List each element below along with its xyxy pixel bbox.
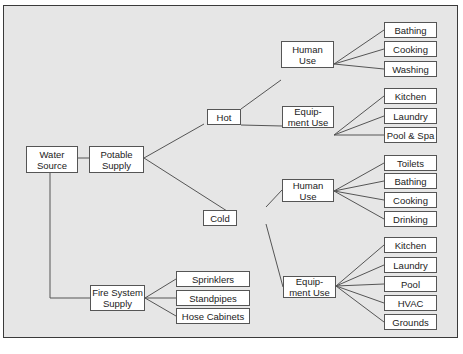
node-hot-human-bathing: Bathing	[384, 22, 437, 38]
node-fire-standpipes: Standpipes	[176, 290, 250, 306]
node-cold-human-drinking: Drinking	[384, 211, 437, 227]
node-fire-hose-cabinets: Hose Cabinets	[176, 308, 250, 324]
node-cold-human-use: Human Use	[282, 179, 334, 202]
node-cold-equip-pool: Pool	[384, 276, 437, 292]
node-hot-equip-kitchen: Kitchen	[384, 88, 437, 104]
node-fire-system-supply: Fire System Supply	[90, 285, 145, 311]
node-hot-equip-pool-spa: Pool & Spa	[384, 127, 437, 143]
node-hot: Hot	[207, 109, 241, 125]
node-potable-supply: Potable Supply	[89, 146, 144, 173]
node-cold-human-toilets: Toilets	[384, 155, 437, 171]
node-cold: Cold	[203, 210, 237, 226]
node-cold-human-cooking: Cooking	[384, 192, 437, 208]
node-hot-equipment-use: Equip- ment Use	[282, 106, 334, 128]
node-cold-equip-kitchen: Kitchen	[384, 237, 437, 253]
node-cold-human-bathing: Bathing	[384, 173, 437, 189]
node-cold-equip-grounds: Grounds	[384, 314, 437, 330]
node-cold-equip-laundry: Laundry	[384, 257, 437, 273]
node-cold-equip-hvac: HVAC	[384, 295, 437, 311]
node-fire-sprinklers: Sprinklers	[176, 271, 250, 287]
node-hot-human-use: Human Use	[281, 41, 334, 68]
node-hot-human-cooking: Cooking	[384, 41, 437, 57]
node-hot-equip-laundry: Laundry	[384, 108, 437, 124]
node-hot-human-washing: Washing	[384, 61, 437, 77]
node-water-source: Water Source	[26, 146, 78, 173]
node-cold-equipment-use: Equip- ment Use	[283, 276, 336, 298]
